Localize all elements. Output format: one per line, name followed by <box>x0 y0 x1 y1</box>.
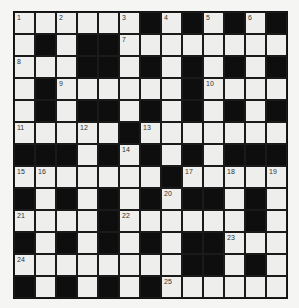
grid-cell-r12c7[interactable] <box>140 254 161 276</box>
grid-cell-r4c4[interactable] <box>77 78 98 100</box>
grid-cell-r4c10[interactable]: 10 <box>203 78 224 100</box>
grid-cell-r6c11[interactable] <box>224 122 245 144</box>
grid-cell-r8c3[interactable] <box>56 166 77 188</box>
grid-cell-r1c2[interactable] <box>35 12 56 34</box>
grid-cell-r1c1[interactable]: 1 <box>14 12 35 34</box>
grid-cell-r6c12[interactable] <box>245 122 266 144</box>
grid-cell-r6c9[interactable] <box>182 122 203 144</box>
grid-cell-r3c8[interactable] <box>161 56 182 78</box>
grid-cell-r5c10[interactable] <box>203 100 224 122</box>
grid-cell-r6c7[interactable]: 13 <box>140 122 161 144</box>
grid-cell-r2c12[interactable] <box>245 34 266 56</box>
grid-cell-r10c4[interactable] <box>77 210 98 232</box>
grid-cell-r9c2[interactable] <box>35 188 56 210</box>
grid-cell-r9c8[interactable]: 20 <box>161 188 182 210</box>
grid-cell-r1c6[interactable]: 3 <box>119 12 140 34</box>
grid-cell-r8c9[interactable]: 17 <box>182 166 203 188</box>
grid-cell-r10c1[interactable]: 21 <box>14 210 35 232</box>
grid-cell-r3c3[interactable] <box>56 56 77 78</box>
grid-cell-r6c13[interactable] <box>266 122 287 144</box>
grid-cell-r10c8[interactable] <box>161 210 182 232</box>
grid-cell-r2c13[interactable] <box>266 34 287 56</box>
grid-cell-r2c1[interactable] <box>14 34 35 56</box>
grid-cell-r8c7[interactable] <box>140 166 161 188</box>
grid-cell-r12c4[interactable] <box>77 254 98 276</box>
grid-cell-r10c7[interactable] <box>140 210 161 232</box>
grid-cell-r9c13[interactable] <box>266 188 287 210</box>
grid-cell-r12c8[interactable] <box>161 254 182 276</box>
grid-cell-r12c2[interactable] <box>35 254 56 276</box>
grid-cell-r11c8[interactable] <box>161 232 182 254</box>
grid-cell-r3c10[interactable] <box>203 56 224 78</box>
grid-cell-r5c12[interactable] <box>245 100 266 122</box>
grid-cell-r5c8[interactable] <box>161 100 182 122</box>
grid-cell-r4c13[interactable] <box>266 78 287 100</box>
grid-cell-r3c12[interactable] <box>245 56 266 78</box>
grid-cell-r12c5[interactable] <box>98 254 119 276</box>
grid-cell-r10c6[interactable]: 22 <box>119 210 140 232</box>
grid-cell-r11c6[interactable] <box>119 232 140 254</box>
grid-cell-r12c11[interactable] <box>224 254 245 276</box>
grid-cell-r8c4[interactable] <box>77 166 98 188</box>
grid-cell-r5c6[interactable] <box>119 100 140 122</box>
grid-cell-r10c2[interactable] <box>35 210 56 232</box>
grid-cell-r5c3[interactable] <box>56 100 77 122</box>
grid-cell-r2c8[interactable] <box>161 34 182 56</box>
grid-cell-r13c12[interactable] <box>245 276 266 298</box>
grid-cell-r8c6[interactable] <box>119 166 140 188</box>
grid-cell-r2c3[interactable] <box>56 34 77 56</box>
grid-cell-r4c8[interactable] <box>161 78 182 100</box>
grid-cell-r10c11[interactable] <box>224 210 245 232</box>
grid-cell-r10c9[interactable] <box>182 210 203 232</box>
grid-cell-r6c3[interactable] <box>56 122 77 144</box>
grid-cell-r9c4[interactable] <box>77 188 98 210</box>
grid-cell-r8c13[interactable]: 19 <box>266 166 287 188</box>
grid-cell-r4c6[interactable] <box>119 78 140 100</box>
grid-cell-r6c4[interactable]: 12 <box>77 122 98 144</box>
grid-cell-r10c10[interactable] <box>203 210 224 232</box>
grid-cell-r1c8[interactable]: 4 <box>161 12 182 34</box>
grid-cell-r1c3[interactable]: 2 <box>56 12 77 34</box>
grid-cell-r3c1[interactable]: 8 <box>14 56 35 78</box>
grid-cell-r3c6[interactable] <box>119 56 140 78</box>
grid-cell-r8c1[interactable]: 15 <box>14 166 35 188</box>
grid-cell-r7c8[interactable] <box>161 144 182 166</box>
grid-cell-r13c2[interactable] <box>35 276 56 298</box>
grid-cell-r1c5[interactable] <box>98 12 119 34</box>
grid-cell-r6c1[interactable]: 11 <box>14 122 35 144</box>
grid-cell-r13c6[interactable] <box>119 276 140 298</box>
grid-cell-r12c3[interactable] <box>56 254 77 276</box>
grid-cell-r8c5[interactable] <box>98 166 119 188</box>
grid-cell-r7c10[interactable] <box>203 144 224 166</box>
grid-cell-r2c11[interactable] <box>224 34 245 56</box>
grid-cell-r13c8[interactable]: 25 <box>161 276 182 298</box>
grid-cell-r4c11[interactable] <box>224 78 245 100</box>
grid-cell-r13c9[interactable] <box>182 276 203 298</box>
grid-cell-r4c1[interactable] <box>14 78 35 100</box>
grid-cell-r7c6[interactable]: 14 <box>119 144 140 166</box>
grid-cell-r13c10[interactable] <box>203 276 224 298</box>
grid-cell-r8c10[interactable] <box>203 166 224 188</box>
grid-cell-r8c2[interactable]: 16 <box>35 166 56 188</box>
grid-cell-r11c12[interactable] <box>245 232 266 254</box>
grid-cell-r11c2[interactable] <box>35 232 56 254</box>
grid-cell-r12c6[interactable] <box>119 254 140 276</box>
grid-cell-r7c4[interactable] <box>77 144 98 166</box>
grid-cell-r9c6[interactable] <box>119 188 140 210</box>
grid-cell-r3c2[interactable] <box>35 56 56 78</box>
grid-cell-r11c13[interactable] <box>266 232 287 254</box>
grid-cell-r9c11[interactable] <box>224 188 245 210</box>
grid-cell-r10c3[interactable] <box>56 210 77 232</box>
grid-cell-r10c13[interactable] <box>266 210 287 232</box>
grid-cell-r1c12[interactable]: 6 <box>245 12 266 34</box>
grid-cell-r2c7[interactable] <box>140 34 161 56</box>
grid-cell-r8c12[interactable] <box>245 166 266 188</box>
grid-cell-r6c8[interactable] <box>161 122 182 144</box>
grid-cell-r1c10[interactable]: 5 <box>203 12 224 34</box>
grid-cell-r6c2[interactable] <box>35 122 56 144</box>
grid-cell-r4c5[interactable] <box>98 78 119 100</box>
grid-cell-r4c3[interactable]: 9 <box>56 78 77 100</box>
grid-cell-r11c11[interactable]: 23 <box>224 232 245 254</box>
grid-cell-r1c4[interactable] <box>77 12 98 34</box>
grid-cell-r6c5[interactable] <box>98 122 119 144</box>
